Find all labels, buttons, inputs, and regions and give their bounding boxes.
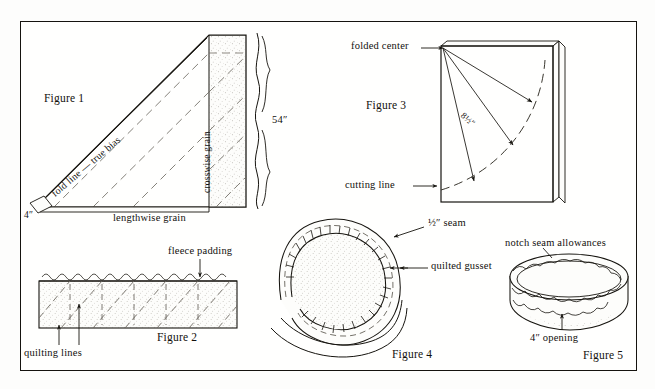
- figure-5-opening-label: 4″ opening: [530, 333, 578, 344]
- figure-1-lengthwise-grain-label: lengthwise grain: [113, 213, 186, 224]
- figure-frame-border: [20, 21, 637, 371]
- figure-1-strip-measure-label: 4″: [24, 211, 33, 221]
- figure-2-caption: Figure 2: [157, 332, 197, 344]
- figure-5-caption: Figure 5: [583, 350, 623, 362]
- figure-1-width-measure-label: 54″: [272, 115, 287, 126]
- diagram-page: Figure 1 fold line — true bias lengthwis…: [0, 0, 655, 389]
- figure-3-cutting-line-label: cutting line: [345, 180, 395, 191]
- figure-5-notch-label: notch seam allowances: [505, 238, 606, 249]
- figure-1-crosswise-grain-label: crosswise grain: [203, 131, 213, 193]
- figure-2-padding-label: fleece padding: [168, 246, 232, 257]
- figure-4-gusset-label: quilted gusset: [431, 261, 492, 272]
- figure-4-caption: Figure 4: [392, 349, 432, 361]
- figure-3-caption: Figure 3: [366, 100, 406, 112]
- figure-1-caption: Figure 1: [44, 93, 84, 105]
- figure-4-seam-label: ½″ seam: [428, 218, 466, 229]
- figure-3-folded-center-label: folded center: [351, 41, 409, 52]
- figure-2-quilting-label: quilting lines: [24, 348, 82, 359]
